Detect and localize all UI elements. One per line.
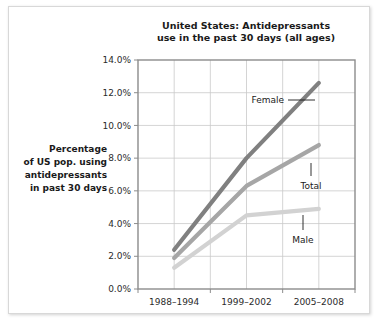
y-tick-label: 12.0%	[102, 88, 131, 98]
y-axis-caption-line-1: Percentage	[49, 144, 107, 154]
y-tick-label: 2.0%	[108, 251, 131, 261]
x-tick-label: 2005–2008	[294, 297, 345, 307]
chart-title-line-1: United States: Antidepressants	[162, 20, 330, 31]
y-axis-caption-line-3: antidepressants	[25, 170, 107, 180]
y-axis-caption-line-2: of US pop. using	[24, 157, 107, 167]
total-series-label: Total	[299, 181, 321, 191]
y-axis-caption-line-4: in past 30 days	[30, 183, 107, 193]
male-series-label: Male	[292, 235, 314, 245]
antidepressant-use-line-chart: United States: Antidepressants use in th…	[0, 0, 379, 325]
y-tick-label: 8.0%	[108, 153, 131, 163]
chart-title-line-2: use in the past 30 days (all ages)	[157, 32, 335, 43]
y-tick-label: 4.0%	[108, 219, 131, 229]
y-tick-label: 0.0%	[108, 284, 131, 294]
x-axis-tick-labels: 1988–19941999–20022005–2008	[149, 297, 344, 307]
plot-area	[134, 60, 355, 293]
x-tick-label: 1988–1994	[149, 297, 200, 307]
x-tick-label: 1999–2002	[221, 297, 271, 307]
y-tick-label: 6.0%	[108, 186, 131, 196]
female-series-label: Female	[251, 95, 284, 105]
y-tick-label: 10.0%	[102, 121, 131, 131]
y-tick-label: 14.0%	[102, 55, 131, 65]
chart-figure: United States: Antidepressants use in th…	[0, 0, 379, 325]
